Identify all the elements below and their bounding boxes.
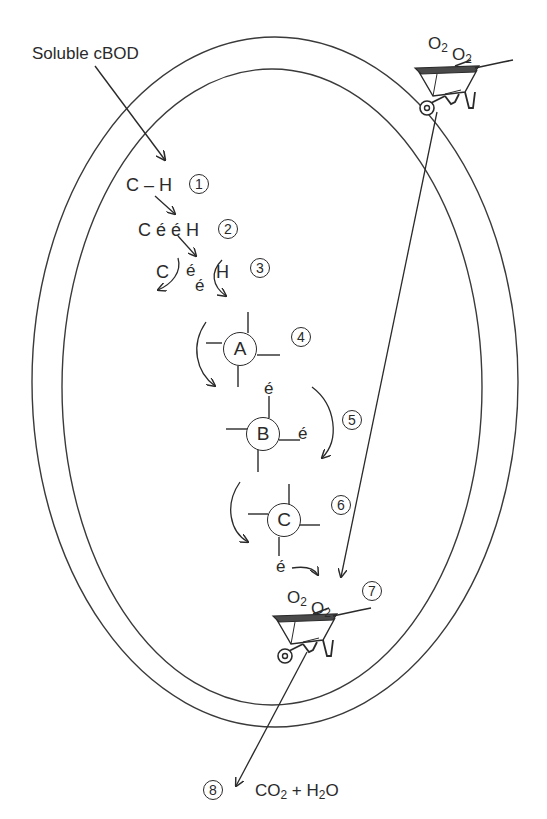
step-number-1: 1 [189,174,209,194]
diagram-canvas [0,0,547,819]
step-number-2: 2 [218,219,238,239]
step1-ch-bond: C – H [126,176,172,194]
step-number-4: 4 [291,327,311,347]
carrier-B-electron-right: é [298,425,307,442]
step3-carbon: C [156,263,169,281]
step2-electrons: C é é H [138,221,199,239]
arrow-into-C [231,482,248,542]
products-label: CO2 + H2O [255,782,339,802]
step3-electron-2: é [195,277,204,294]
oxygen-label: O2 [287,589,307,609]
step-number-6: 6 [331,495,351,515]
carrier-A: A [223,332,257,366]
oxygen-label: O2 [452,46,472,66]
soluble-cbod-label: Soluble cBOD [32,45,139,62]
step-number-5: 5 [342,410,362,430]
carrier-B-electron-top: é [264,380,273,397]
arrow-step5 [312,387,333,458]
arrow-electron-to-o2 [292,567,318,575]
carrier-C-electron: é [276,558,285,575]
oxygen-label: O2 [311,600,331,620]
product-exit-arrow [236,652,307,786]
step3-hydrogen: H [216,263,229,281]
cell-membrane-outer [32,37,518,727]
carrier-B: B [246,417,280,451]
step-number-3: 3 [250,258,270,278]
wheelbarrow-icon [415,60,513,115]
step-number-8: 8 [203,780,223,800]
oxygen-delivery-arrow [341,112,437,577]
arrow-step1-to-2 [155,196,175,214]
step-number-7: 7 [362,581,382,601]
arrow-into-A [197,322,215,386]
carrier-C: C [267,503,301,537]
cbod-entry-arrow [95,66,165,160]
oxygen-label: O2 [428,35,448,55]
